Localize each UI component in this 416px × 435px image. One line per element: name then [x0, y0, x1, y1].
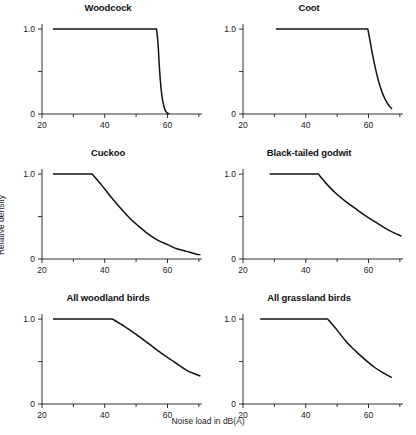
x-tick-label: 40	[301, 120, 311, 130]
density-curve	[53, 174, 200, 255]
x-tick-label: 40	[301, 410, 311, 420]
x-tick-label: 60	[163, 410, 173, 420]
panel-all-woodland-birds: All woodland birds 01.0204060	[8, 292, 208, 434]
y-tick-label: 1.0	[224, 169, 236, 179]
x-tick-label: 40	[301, 265, 311, 275]
plot-area: 01.0204060	[8, 159, 208, 289]
panel-cuckoo: Cuckoo 01.0204060	[8, 147, 208, 289]
y-tick-label: 0	[231, 109, 236, 119]
panel-title: All woodland birds	[8, 292, 208, 303]
x-tick-label: 20	[238, 120, 248, 130]
panel-coot: Coot 01.0204060	[209, 2, 409, 144]
y-tick-label: 1.0	[23, 24, 35, 34]
panel-title: All grassland birds	[209, 292, 409, 303]
x-tick-label: 20	[238, 265, 248, 275]
x-tick-label: 60	[163, 265, 173, 275]
y-tick-label: 0	[30, 399, 35, 409]
density-curve	[276, 29, 392, 109]
x-tick-label: 40	[100, 265, 110, 275]
x-tick-label: 20	[37, 265, 47, 275]
panel-title: Woodcock	[8, 2, 208, 13]
x-tick-label: 60	[364, 120, 374, 130]
x-tick-label: 40	[100, 410, 110, 420]
x-tick-label: 60	[163, 120, 173, 130]
density-curve	[53, 29, 169, 114]
plot-area: 01.0204060	[8, 304, 208, 434]
x-tick-label: 60	[364, 410, 374, 420]
y-tick-label: 1.0	[224, 314, 236, 324]
y-tick-label: 1.0	[224, 24, 236, 34]
x-tick-label: 60	[364, 265, 374, 275]
y-tick-label: 1.0	[23, 314, 35, 324]
y-axis-label: Relative density	[0, 170, 6, 280]
density-curve	[270, 174, 402, 236]
plot-area: 01.0204060	[8, 14, 208, 144]
density-curve	[53, 319, 200, 376]
panel-all-grassland-birds: All grassland birds 01.0204060	[209, 292, 409, 434]
x-tick-label: 20	[37, 120, 47, 130]
panel-title: Coot	[209, 2, 409, 13]
panel-woodcock: Woodcock 01.0204060	[8, 2, 208, 144]
density-curve	[260, 319, 392, 378]
y-tick-label: 1.0	[23, 169, 35, 179]
y-tick-label: 0	[231, 399, 236, 409]
x-tick-label: 20	[37, 410, 47, 420]
plot-area: 01.0204060	[209, 159, 409, 289]
panel-title: Cuckoo	[8, 147, 208, 158]
plot-area: 01.0204060	[209, 304, 409, 434]
y-tick-label: 0	[30, 254, 35, 264]
figure-container: Relative density Noise load in dB(A) Woo…	[0, 0, 416, 435]
panel-title: Black-tailed godwit	[209, 147, 409, 158]
x-tick-label: 40	[100, 120, 110, 130]
y-tick-label: 0	[30, 109, 35, 119]
y-tick-label: 0	[231, 254, 236, 264]
x-tick-label: 20	[238, 410, 248, 420]
panel-black-tailed-godwit: Black-tailed godwit 01.0204060	[209, 147, 409, 289]
plot-area: 01.0204060	[209, 14, 409, 144]
